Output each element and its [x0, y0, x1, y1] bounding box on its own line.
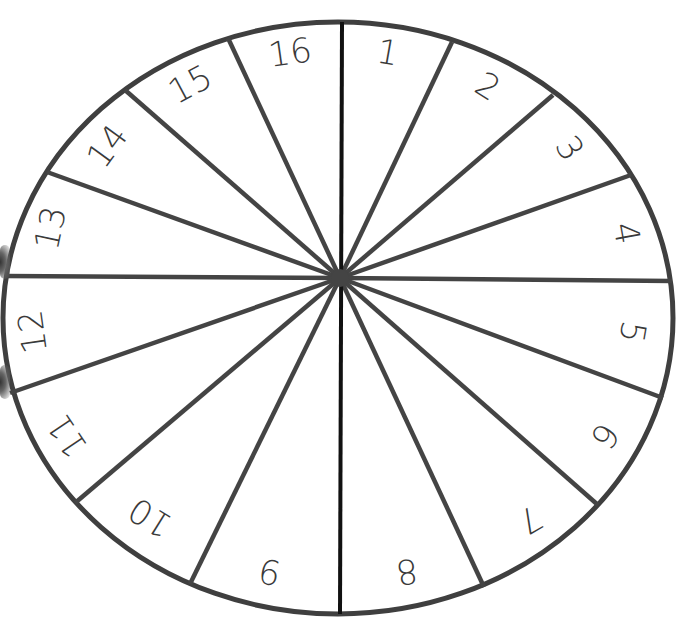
punch-hole-shadow-top: [0, 245, 10, 279]
wheel-rim: [3, 22, 673, 614]
wheel-hub: [331, 269, 349, 287]
vertical-divider: [340, 22, 342, 614]
segment-label-12: 12: [9, 308, 55, 356]
spoke-line: [5, 276, 340, 278]
spinner-wheel: 12345678910111213141516: [0, 0, 679, 617]
segment-label-16: 16: [266, 29, 314, 75]
punch-hole-shadow-bottom: [0, 365, 10, 399]
spoke-line: [340, 278, 672, 281]
